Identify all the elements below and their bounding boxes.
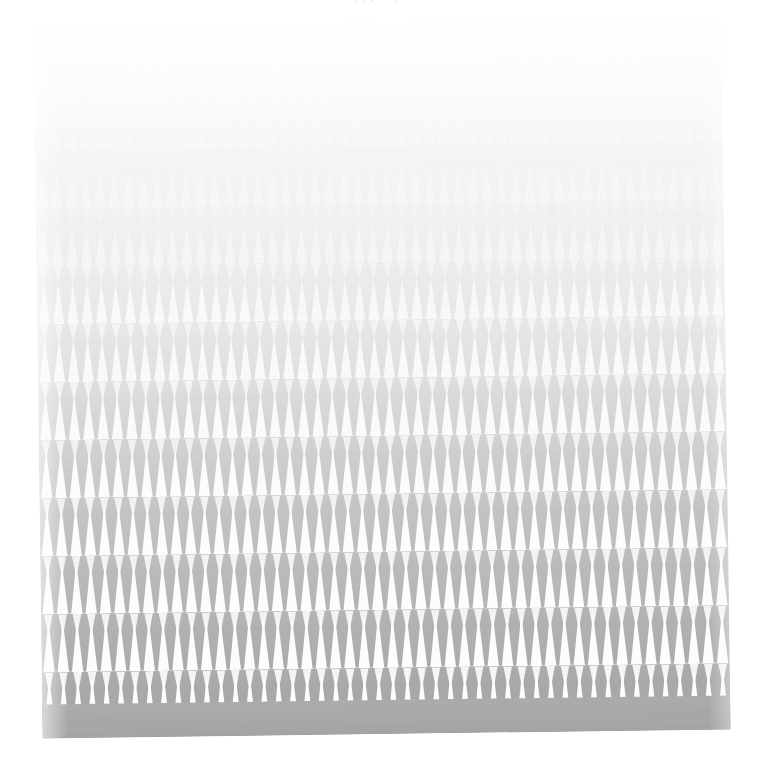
sawtooth-teeth — [40, 489, 729, 556]
sawtooth-row — [35, 142, 724, 209]
caption-text: . . . - - . - - — [0, 0, 771, 3]
scanned-plate-wrapper — [33, 18, 730, 739]
sawtooth-row — [37, 258, 726, 325]
sawtooth-teeth — [34, 84, 723, 151]
figure-page: . . . - - . - - — [0, 0, 771, 764]
sawtooth-row — [34, 84, 723, 151]
sawtooth-row — [38, 373, 727, 440]
sawtooth-teeth — [36, 200, 725, 267]
scanned-plate — [33, 18, 730, 739]
sawtooth-teeth — [38, 373, 727, 440]
sawtooth-teeth — [37, 316, 726, 383]
sawtooth-teeth — [39, 431, 728, 498]
sawtooth-teeth — [41, 605, 730, 672]
sawtooth-row — [39, 431, 728, 498]
sawtooth-row — [40, 489, 729, 556]
sawtooth-teeth — [37, 258, 726, 325]
sawtooth-row — [40, 547, 729, 614]
sawtooth-teeth — [35, 142, 724, 209]
sawtooth-row — [37, 316, 726, 383]
sawtooth-row — [36, 200, 725, 267]
clipped-caption-strip: . . . - - . - - — [0, 0, 771, 11]
sawtooth-teeth — [33, 26, 722, 93]
sawtooth-row — [41, 605, 730, 672]
sawtooth-row-stack — [33, 18, 730, 739]
sawtooth-teeth — [40, 547, 729, 614]
sawtooth-row — [33, 26, 722, 93]
